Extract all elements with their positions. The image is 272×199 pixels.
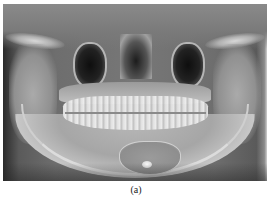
nasal-cavity: [120, 34, 152, 79]
occlusal-plane: [65, 112, 206, 114]
soft-tissue-shadow: [3, 163, 267, 181]
right-maxillary-sinus: [171, 42, 205, 88]
figure-caption: (a): [0, 184, 272, 196]
panoramic-xray-image: [3, 4, 267, 181]
left-maxillary-sinus: [73, 42, 107, 88]
